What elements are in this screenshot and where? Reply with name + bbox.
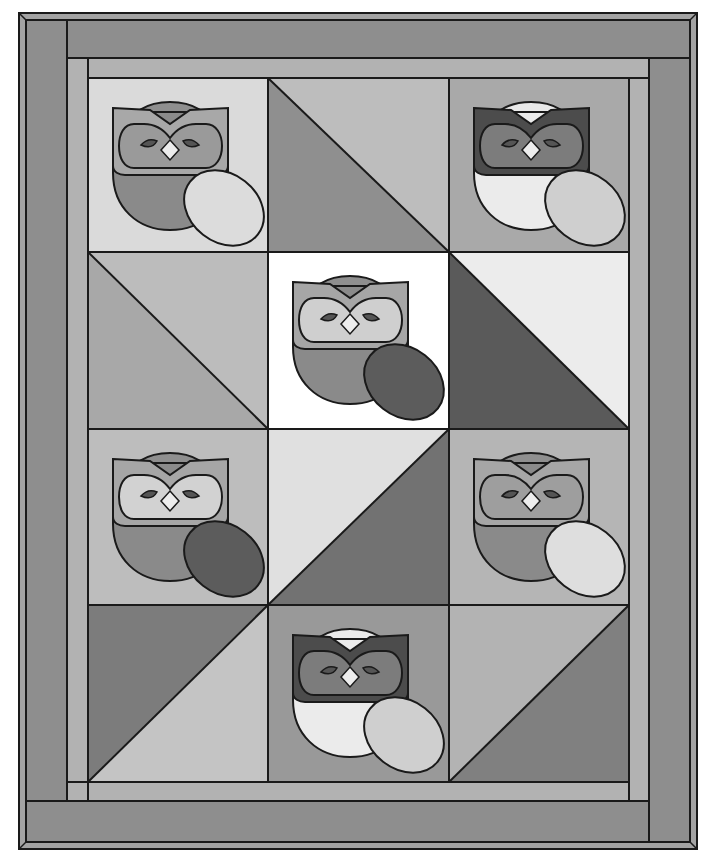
half-square-triangle-block <box>449 252 629 429</box>
owl-block <box>268 252 459 435</box>
half-square-triangle-block <box>449 605 629 782</box>
owl-block <box>449 429 640 612</box>
quilt-blocks-grid <box>88 78 640 788</box>
half-square-triangle-block <box>268 78 449 252</box>
owl-block <box>449 78 640 261</box>
quilt-illustration <box>0 0 710 868</box>
half-square-triangle-block <box>88 252 268 429</box>
owl-block <box>88 78 279 261</box>
owl-block <box>268 605 459 788</box>
half-square-triangle-block <box>268 429 449 605</box>
owl-block <box>88 429 279 612</box>
half-square-triangle-block <box>88 605 268 782</box>
